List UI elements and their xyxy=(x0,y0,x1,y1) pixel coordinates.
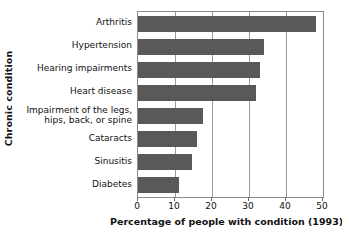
y-axis-title: Chronic condition xyxy=(0,0,18,196)
x-axis-tick-label: 0 xyxy=(134,201,140,211)
bar xyxy=(138,62,260,78)
bar xyxy=(138,177,179,193)
x-axis-tick-label: 50 xyxy=(316,201,327,211)
bar xyxy=(138,154,192,170)
bar-chart: Chronic condition ArthritisHypertensionH… xyxy=(0,0,342,241)
bar xyxy=(138,108,203,124)
x-axis-tick-label: 20 xyxy=(205,201,216,211)
y-axis-tick-label: Sinusitis xyxy=(94,156,132,167)
y-axis-tick-label: Hypertension xyxy=(72,40,132,51)
x-axis-tick-label: 10 xyxy=(168,201,179,211)
plot-area xyxy=(137,11,324,198)
y-axis-tick-label: Heart disease xyxy=(70,86,132,97)
y-axis-tick-label: Hearing impairments xyxy=(37,63,132,74)
y-axis-tick-label: Cataracts xyxy=(89,133,132,144)
bar-series xyxy=(138,12,323,197)
y-axis-title-text: Chronic condition xyxy=(4,50,15,146)
x-axis-tick-label: 30 xyxy=(242,201,253,211)
y-axis-tick-label: Arthritis xyxy=(96,17,132,28)
x-axis-tick-labels: 01020304050 xyxy=(137,201,323,214)
bar xyxy=(138,131,197,147)
x-axis-tick-label: 40 xyxy=(279,201,290,211)
bar xyxy=(138,39,264,55)
y-axis-tick-label: Impairment of the legs, hips, back, or s… xyxy=(26,105,132,126)
bar xyxy=(138,85,256,101)
y-axis-tick-label: Diabetes xyxy=(92,179,132,190)
bar xyxy=(138,16,316,32)
y-axis-tick-labels: ArthritisHypertensionHearing impairments… xyxy=(18,11,135,196)
x-axis-title: Percentage of people with condition (199… xyxy=(110,216,342,227)
